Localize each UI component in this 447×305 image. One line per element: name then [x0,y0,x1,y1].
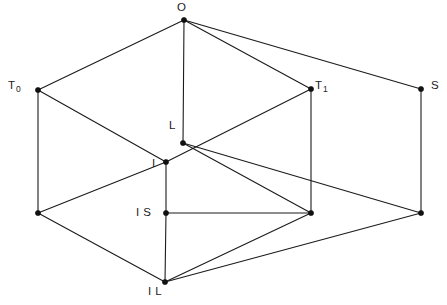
node-label-IS: I S [136,207,151,219]
vertex-IL [162,279,167,284]
edge-V2-IL [165,213,311,282]
node-label-L: L [169,120,176,132]
edge-O-L [183,20,184,143]
edge-L-V2 [183,143,311,213]
vertex-O [181,17,186,22]
node-label-T1: T1 [315,80,327,92]
vertex-S [418,86,423,91]
node-label-O: O [177,2,186,14]
node-label-I: I [152,158,156,170]
vertex-V3 [418,210,423,215]
edge-V1-IL [38,213,165,282]
edge-IS-IL [165,213,166,282]
vertex-T0 [35,87,40,92]
vertex-T1 [308,86,313,91]
node-label-IL: I L [148,286,162,298]
vertex-I [163,159,168,164]
edge-V3-IL [165,213,421,282]
vertex-L [180,140,185,145]
node-label-S: S [431,80,439,92]
node-label-T0: T0 [8,80,20,92]
vertex-IS [163,210,168,215]
edge-L-V3 [183,143,421,213]
diagram-canvas [0,0,447,305]
vertex-group [35,17,423,284]
edge-O-T0 [38,20,184,90]
vertex-V2 [308,210,313,215]
edge-T1-I [166,89,311,162]
edge-T0-I [38,90,166,162]
lattice-diagram: O T0 T1 S L I I S I L [0,0,447,305]
edge-group [38,20,421,282]
edge-O-T1 [184,20,311,89]
edge-O-S [184,20,421,89]
vertex-V1 [35,210,40,215]
